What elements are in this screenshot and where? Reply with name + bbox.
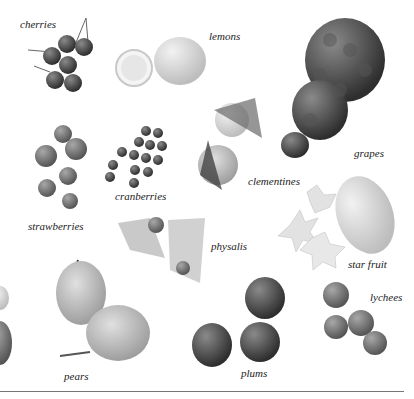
label-strawberries: strawberries: [28, 220, 84, 232]
label-lemons: lemons: [209, 30, 240, 42]
physalis-image: [118, 217, 205, 283]
label-plums: plums: [241, 367, 267, 379]
label-lychees: lychees: [370, 291, 402, 303]
label-cranberries: cranberries: [115, 190, 166, 202]
label-cherries: cherries: [20, 18, 56, 30]
label-grapes: grapes: [354, 147, 384, 159]
plums-image: [192, 277, 285, 367]
partial-fruit-left-edge: [0, 286, 12, 365]
fruit-illustrations: [0, 0, 414, 399]
label-physalis: physalis: [211, 240, 247, 252]
label-clementines: clementines: [248, 175, 300, 187]
grapes-image: [281, 18, 385, 158]
label-star-fruit: star fruit: [348, 258, 387, 270]
lemons-image: [116, 37, 206, 86]
strawberries-image: [35, 125, 87, 209]
cranberries-image: [105, 126, 167, 188]
pears-image: [56, 260, 150, 361]
label-pears: pears: [64, 370, 88, 382]
bottom-rule: [0, 391, 404, 392]
